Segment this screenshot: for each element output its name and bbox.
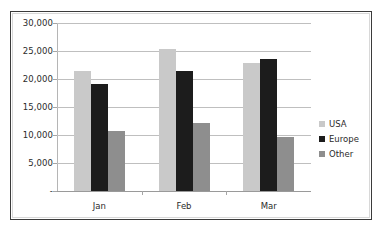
gridline — [57, 191, 311, 192]
y-axis-tick-mark — [53, 191, 57, 192]
bar-europe-mar — [260, 59, 277, 191]
y-axis-tick-labels: -5,00010,00015,00020,00025,00030,000 — [11, 12, 53, 221]
legend-item-label: Europe — [329, 134, 359, 144]
y-axis-tick-mark — [53, 135, 57, 136]
bar-other-mar — [277, 137, 294, 191]
bar-usa-mar — [243, 63, 260, 191]
bar-europe-jan — [91, 84, 108, 191]
legend-item-europe[interactable]: Europe — [319, 131, 379, 146]
chart-frame: -5,00010,00015,00020,00025,00030,000 Jan… — [10, 11, 372, 220]
x-axis-tick-label-mar: Mar — [261, 201, 277, 211]
y-axis-tick-label: 15,000 — [23, 102, 53, 112]
y-axis-tick-mark — [53, 51, 57, 52]
bar-other-jan — [108, 131, 125, 191]
legend-swatch-icon-europe — [319, 136, 325, 142]
legend-item-label: Other — [329, 149, 353, 159]
y-axis-tick-mark — [53, 23, 57, 24]
y-axis-tick-mark — [53, 163, 57, 164]
x-axis-tick-label-jan: Jan — [93, 201, 106, 211]
y-axis-tick-mark — [53, 107, 57, 108]
legend-item-other[interactable]: Other — [319, 146, 379, 161]
y-axis-tick-label: 10,000 — [23, 130, 53, 140]
bar-usa-feb — [159, 49, 176, 191]
plot-area — [57, 23, 311, 191]
bar-europe-feb — [176, 71, 193, 191]
legend-item-label: USA — [329, 119, 347, 129]
x-axis-tick-mark — [142, 191, 143, 195]
y-axis-tick-label: 30,000 — [23, 18, 53, 28]
y-axis-tick-label: 5,000 — [28, 158, 53, 168]
legend-swatch-icon-usa — [319, 121, 325, 127]
x-axis-tick-mark — [226, 191, 227, 195]
gridline — [57, 23, 311, 24]
bar-usa-jan — [74, 71, 91, 191]
gridline — [57, 51, 311, 52]
legend-item-usa[interactable]: USA — [319, 116, 379, 131]
x-axis-tick-label-feb: Feb — [176, 201, 191, 211]
y-axis-tick-label: 20,000 — [23, 74, 53, 84]
chart-legend: USAEuropeOther — [319, 116, 379, 161]
y-axis-tick-label: 25,000 — [23, 46, 53, 56]
bar-other-feb — [193, 123, 210, 191]
y-axis-tick-mark — [53, 79, 57, 80]
legend-swatch-icon-other — [319, 151, 325, 157]
